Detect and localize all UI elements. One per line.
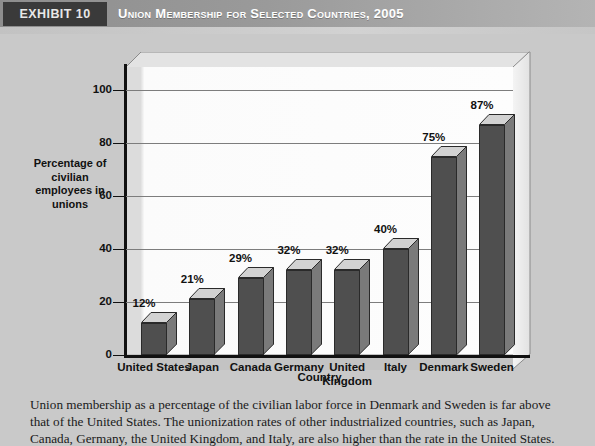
y-axis-tick	[113, 90, 125, 91]
bar-front-face	[383, 249, 409, 355]
exhibit-number-label: EXHIBIT 10	[19, 7, 90, 21]
bar-side-face	[408, 238, 420, 357]
bar-value-label: 32%	[314, 244, 360, 256]
bar-top-face-outline	[431, 146, 469, 159]
y-axis-tick-label: 80	[76, 136, 112, 148]
gridline	[126, 90, 513, 91]
bar-front-face	[286, 270, 312, 355]
bar-side-face	[263, 267, 275, 357]
bar-top-face-outline	[238, 267, 276, 280]
exhibit-header-bar: EXHIBIT 10 Union Membership for Selected…	[0, 0, 595, 27]
y-axis-tick-label: 40	[76, 242, 112, 254]
exhibit-number-tag: EXHIBIT 10	[3, 2, 107, 26]
chart-figure: 020406080100 Percentage of civilian empl…	[0, 34, 595, 390]
bar-value-label: 40%	[363, 223, 409, 235]
figure-caption: Union membership as a percentage of the …	[30, 396, 570, 446]
exhibit-title: Union Membership for Selected Countries,…	[118, 0, 404, 27]
bar-value-label: 29%	[218, 252, 264, 264]
x-axis-line	[124, 355, 530, 358]
bar-value-label: 32%	[266, 244, 312, 256]
y-axis-tick-label: 100	[76, 83, 112, 95]
bar-side-face	[456, 146, 468, 357]
y-axis-tick-label: 20	[76, 295, 112, 307]
bar-front-face	[238, 278, 264, 355]
bar-front-face	[141, 323, 167, 355]
header-shadow-strip	[0, 27, 595, 34]
bar-front-face	[334, 270, 360, 355]
bar-top-face-outline	[334, 259, 372, 272]
gridline	[126, 143, 513, 144]
bar-top-face-outline	[141, 312, 179, 325]
bar-side-face	[504, 114, 516, 357]
bar-top-face-outline	[286, 259, 324, 272]
bar-front-face	[189, 299, 215, 355]
y-axis-title: Percentage of civilian employees in unio…	[28, 157, 112, 211]
bar-front-face	[431, 157, 457, 355]
y-axis-tick	[113, 249, 125, 250]
y-axis-tick	[113, 143, 125, 144]
bar-top-face-outline	[383, 238, 421, 251]
bar-top-face-outline	[189, 288, 227, 301]
bar-front-face	[479, 125, 505, 355]
y-axis-tick	[113, 355, 125, 356]
bar-side-face	[359, 259, 371, 357]
bar-value-label: 21%	[169, 273, 215, 285]
x-axis-title-text: Country	[297, 371, 341, 383]
y-axis-tick-label: 0	[88, 348, 112, 360]
bar-side-face	[311, 259, 323, 357]
bar-value-label: 75%	[411, 131, 457, 143]
bar-value-label: 12%	[121, 297, 167, 309]
bar-top-face-outline	[479, 114, 517, 127]
bar-value-label: 87%	[459, 99, 505, 111]
y-axis-line	[124, 64, 127, 358]
y-axis-tick	[113, 196, 125, 197]
x-axis-title: Country	[0, 371, 595, 383]
chart-3d-top-wall	[125, 52, 529, 68]
